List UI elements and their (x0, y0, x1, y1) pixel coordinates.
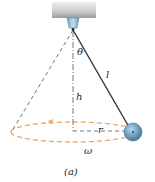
pendulum-string (73, 30, 129, 127)
figure-caption: (a) (64, 166, 78, 177)
omega-label: ω (84, 145, 92, 156)
orbit-path-front (11, 132, 135, 142)
theta-label: θ (77, 46, 83, 57)
length-label: l (106, 69, 109, 80)
pivot-mount (67, 18, 79, 28)
height-label: h (76, 91, 82, 102)
conical-pendulum-diagram: θ l h r ω (a) (0, 0, 155, 182)
ceiling-support (52, 2, 96, 18)
bob-center-dot (132, 131, 134, 133)
radius-label: r (98, 124, 104, 135)
cone-edge-line (12, 30, 73, 131)
